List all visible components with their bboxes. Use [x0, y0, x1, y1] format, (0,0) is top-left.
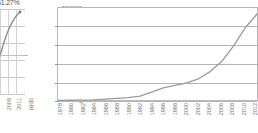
x-tick-label: 1996 [160, 103, 166, 115]
main-chart: 500000 400000 300000 200000 100000 0 [44, 0, 258, 133]
left-x-axis-note: 年份 [27, 98, 35, 110]
x-tick-label: 1978 [57, 103, 63, 115]
x-tick-label: 1998 [172, 103, 178, 115]
left-chart-x-axis: 2009 2011 年份 [0, 98, 44, 133]
main-chart-plot-area [57, 7, 258, 101]
left-x-tick-label: 2011 [16, 98, 22, 110]
left-chart-percent-label: 51.27% [0, 0, 20, 6]
x-tick-label: 2008 [229, 103, 235, 115]
main-chart-x-axis: 1978198019821984198619881990199219941996… [57, 102, 258, 133]
x-tick-label: 2002 [195, 103, 201, 115]
left-chart-plot-area [0, 9, 25, 95]
left-chart-divider [0, 55, 28, 56]
x-tick-label: 1994 [149, 103, 155, 115]
x-tick-label: 2000 [183, 103, 189, 115]
x-tick-label: 1982 [80, 103, 86, 115]
x-tick-label: 2012 [252, 103, 258, 115]
x-tick-label: 1992 [137, 103, 143, 115]
x-tick-label: 2010 [241, 103, 247, 115]
x-tick-label: 1984 [91, 103, 97, 115]
left-x-tick-label: 2009 [6, 98, 12, 110]
left-chart-series-line [0, 9, 25, 95]
x-tick-label: 1990 [126, 103, 132, 115]
left-cropped-chart: 51.27% 2009 2011 年份 [0, 0, 44, 133]
main-chart-series-line [58, 8, 257, 101]
screenshot-root: 51.27% 2009 2011 年份 500 [0, 0, 258, 133]
x-tick-label: 1988 [114, 103, 120, 115]
x-tick-label: 1986 [103, 103, 109, 115]
x-tick-label: 2006 [218, 103, 224, 115]
x-tick-label: 2004 [206, 103, 212, 115]
x-tick-label: 1980 [68, 103, 74, 115]
